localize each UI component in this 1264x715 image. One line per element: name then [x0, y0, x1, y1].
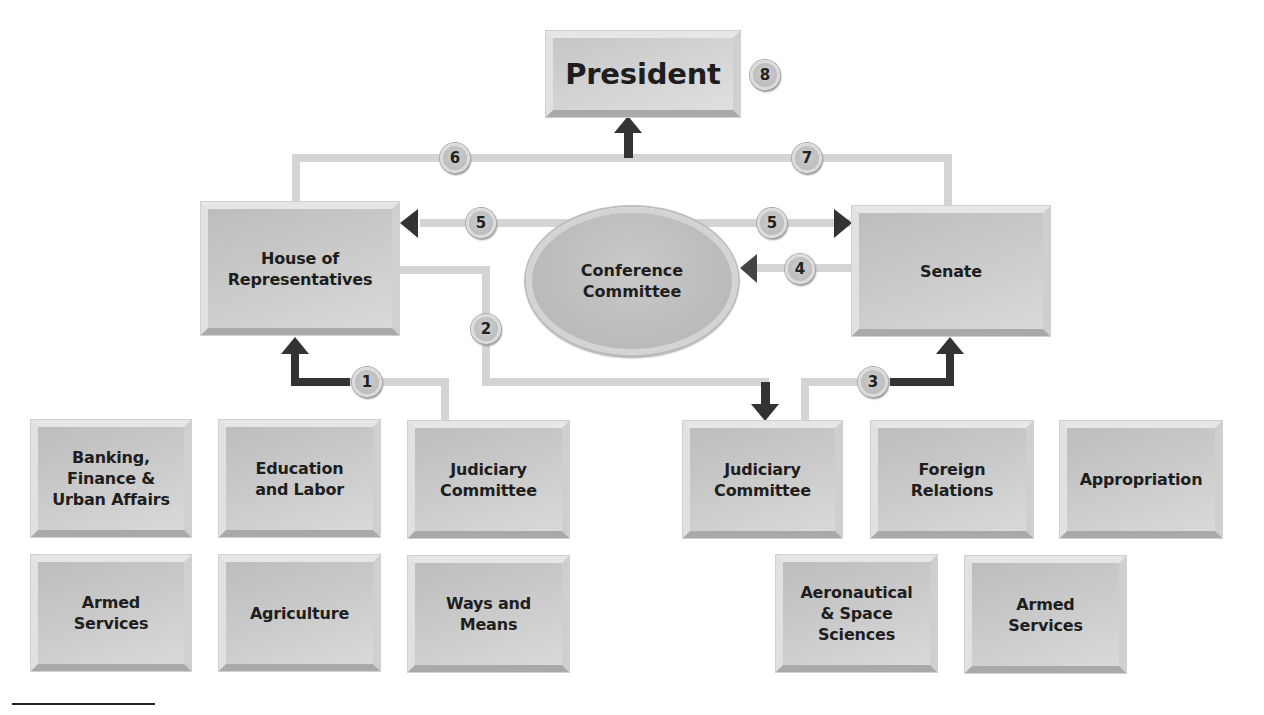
committee-label: Foreign Relations	[911, 459, 994, 501]
president-label: President	[565, 58, 721, 90]
arrow-left-icon	[740, 254, 757, 283]
step-number: 3	[868, 373, 878, 391]
step-badge-3: 3	[858, 367, 888, 397]
senate-committee-armed-services: Armed Services	[965, 556, 1126, 673]
step-number: 7	[802, 149, 812, 167]
president-node: President	[546, 31, 740, 117]
step-number: 2	[481, 320, 491, 338]
step-badge-2: 2	[471, 314, 501, 344]
connector-6-7	[296, 116, 948, 207]
house-committee-armed-services: Armed Services	[31, 555, 191, 671]
senate-committee-appropriation: Appropriation	[1060, 421, 1222, 538]
arrow-up-icon	[936, 337, 964, 354]
step-badge-4: 4	[785, 254, 815, 284]
arrow-up-icon	[614, 116, 642, 133]
step-number: 4	[795, 260, 805, 278]
step-number: 5	[767, 214, 777, 232]
step-badge-5-right: 5	[757, 208, 787, 238]
senate-committee-aeronautical: Aeronautical & Space Sciences	[776, 555, 937, 672]
committee-label: Armed Services	[74, 592, 148, 634]
committee-label: Ways and Means	[446, 593, 531, 635]
committee-label: Agriculture	[250, 603, 349, 624]
senate-committee-foreign-relations: Foreign Relations	[871, 421, 1033, 538]
house-committee-judiciary: Judiciary Committee	[408, 421, 569, 538]
arrow-left-icon	[400, 209, 418, 238]
step-badge-5-left: 5	[466, 208, 496, 238]
committee-label: Judiciary Committee	[440, 459, 537, 501]
step-number: 5	[476, 214, 486, 232]
step-badge-7: 7	[792, 143, 822, 173]
house-committee-agriculture: Agriculture	[219, 555, 380, 671]
step-number: 6	[450, 149, 460, 167]
committee-label: Judiciary Committee	[714, 459, 811, 501]
senate-label: Senate	[920, 261, 982, 282]
house-committee-education: Education and Labor	[219, 420, 380, 537]
committee-label: Armed Services	[1008, 594, 1082, 636]
step-number: 1	[362, 373, 372, 391]
step-badge-8: 8	[750, 60, 780, 90]
arrow-right-icon	[834, 209, 852, 238]
arrow-down-icon	[751, 404, 779, 421]
house-committee-banking: Banking, Finance & Urban Affairs	[31, 420, 191, 537]
house-committee-ways-and-means: Ways and Means	[408, 556, 569, 672]
step-number: 8	[760, 66, 770, 84]
step-badge-1: 1	[352, 367, 382, 397]
conference-committee-node: Conference Committee	[526, 207, 738, 355]
senate-node: Senate	[852, 206, 1050, 336]
committee-label: Banking, Finance & Urban Affairs	[52, 447, 170, 510]
step-badge-6: 6	[440, 143, 470, 173]
footer-rule	[12, 703, 155, 705]
senate-committee-judiciary: Judiciary Committee	[683, 421, 842, 538]
arrow-up-icon	[281, 337, 309, 354]
house-label: House of Representatives	[228, 248, 373, 290]
house-node: House of Representatives	[201, 202, 399, 335]
conference-label: Conference Committee	[581, 260, 683, 302]
committee-label: Education and Labor	[255, 458, 344, 500]
committee-label: Appropriation	[1080, 469, 1203, 490]
committee-label: Aeronautical & Space Sciences	[800, 582, 912, 645]
